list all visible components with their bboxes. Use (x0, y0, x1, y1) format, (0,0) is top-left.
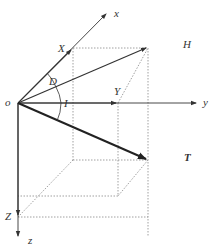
Z-label: Z (5, 210, 12, 222)
T-vector (18, 103, 146, 159)
H-vector (18, 48, 146, 103)
z-axis-label: z (27, 234, 33, 246)
inclination-arc (56, 87, 61, 121)
D-angle-label: D (48, 75, 57, 87)
X-label: X (57, 42, 66, 54)
Y-label: Y (114, 85, 122, 97)
y-axis-label: y (202, 96, 208, 108)
axes (18, 14, 196, 236)
H-label: H (182, 38, 192, 50)
component-vectors (18, 50, 116, 215)
X-vector (18, 50, 71, 103)
magnetic-field-diagram: o x y z X Y Z H T D I (0, 0, 216, 250)
x-axis-label: x (113, 7, 119, 19)
box-edges (18, 48, 148, 237)
origin-label: o (5, 96, 11, 108)
T-label: T (184, 151, 192, 163)
